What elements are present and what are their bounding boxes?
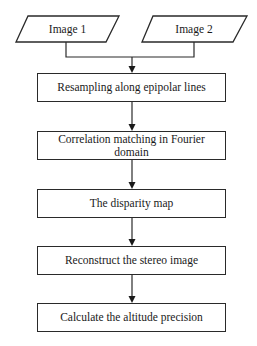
step-calculate: Calculate the altitude precision — [37, 303, 226, 332]
image1-connector — [66, 42, 194, 57]
image2-label: Image 2 — [148, 16, 240, 42]
step-resampling: Resampling along epipolar lines — [37, 73, 226, 102]
step-correlation: Correlation matching in Fourier domain — [37, 131, 226, 160]
arrowhead-icon — [129, 124, 136, 131]
step-reconstruct: Reconstruct the stereo image — [37, 246, 226, 275]
arrowhead-icon — [129, 296, 136, 303]
step-disparity-label: The disparity map — [90, 197, 174, 210]
arrowhead-icon — [129, 66, 136, 73]
arrowhead-icon — [129, 239, 136, 246]
step-reconstruct-label: Reconstruct the stereo image — [65, 254, 198, 267]
step-calculate-label: Calculate the altitude precision — [60, 311, 203, 324]
step-resampling-label: Resampling along epipolar lines — [57, 81, 206, 94]
arrowhead-icon — [129, 182, 136, 189]
image1-label: Image 1 — [22, 16, 113, 42]
flowchart-connectors — [0, 0, 257, 346]
flowchart: Image 1 Image 2 Resampling along epipola… — [0, 0, 257, 346]
step-disparity: The disparity map — [37, 189, 226, 218]
step-correlation-label: Correlation matching in Fourier domain — [56, 133, 207, 159]
